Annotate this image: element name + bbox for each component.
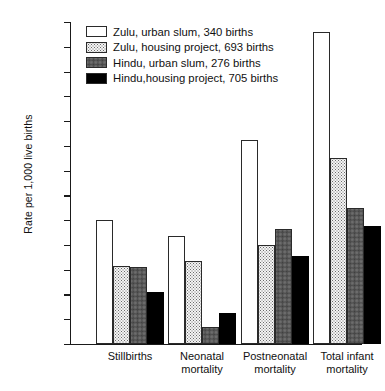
legend-label: Hindu,housing project, 705 births bbox=[113, 72, 278, 84]
bar bbox=[275, 229, 292, 344]
legend-swatch bbox=[86, 26, 107, 37]
y-tick-mark bbox=[64, 270, 70, 271]
legend-swatch bbox=[86, 57, 107, 68]
y-tick-mark bbox=[64, 22, 70, 23]
y-axis-line bbox=[70, 22, 71, 345]
legend-item: Zulu, urban slum, 340 births bbox=[86, 24, 278, 40]
bar bbox=[185, 261, 202, 344]
bar bbox=[130, 267, 147, 344]
bar bbox=[241, 140, 258, 344]
bar bbox=[168, 236, 185, 344]
bar bbox=[219, 313, 236, 344]
legend-swatch bbox=[86, 73, 107, 84]
bar bbox=[113, 266, 130, 344]
y-tick-mark bbox=[64, 319, 70, 320]
legend-label: Zulu, housing project, 693 births bbox=[113, 41, 274, 53]
legend-label: Hindu, urban slum, 276 births bbox=[113, 57, 261, 69]
bar bbox=[313, 32, 330, 344]
bar bbox=[364, 226, 381, 344]
bar bbox=[96, 220, 113, 344]
y-tick-mark bbox=[64, 195, 70, 196]
x-axis-category-label: Total infant mortality bbox=[297, 350, 385, 375]
legend-item: Hindu, urban slum, 276 births bbox=[86, 55, 278, 71]
y-tick-mark bbox=[64, 344, 70, 345]
y-axis-title: Rate per 1,000 live births bbox=[22, 84, 34, 264]
y-tick-mark bbox=[64, 121, 70, 122]
y-tick-mark bbox=[64, 72, 70, 73]
y-tick-mark bbox=[64, 171, 70, 172]
bar bbox=[330, 158, 347, 344]
legend-item: Zulu, housing project, 693 births bbox=[86, 40, 278, 56]
bar bbox=[292, 256, 309, 344]
y-tick-mark bbox=[64, 245, 70, 246]
chart-legend: Zulu, urban slum, 340 birthsZulu, housin… bbox=[86, 24, 278, 86]
bar bbox=[258, 245, 275, 344]
y-tick-mark bbox=[64, 96, 70, 97]
y-tick-mark bbox=[64, 47, 70, 48]
y-tick-mark bbox=[64, 146, 70, 147]
bar bbox=[202, 327, 219, 344]
bar bbox=[347, 208, 364, 344]
legend-swatch bbox=[86, 42, 107, 53]
y-tick-mark bbox=[64, 294, 70, 295]
legend-label: Zulu, urban slum, 340 births bbox=[113, 26, 253, 38]
legend-item: Hindu,housing project, 705 births bbox=[86, 71, 278, 87]
x-axis-line bbox=[70, 344, 362, 345]
y-tick-mark bbox=[64, 220, 70, 221]
bar bbox=[147, 292, 164, 344]
